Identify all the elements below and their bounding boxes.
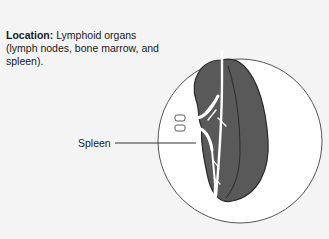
spleen-illustration bbox=[0, 0, 329, 239]
